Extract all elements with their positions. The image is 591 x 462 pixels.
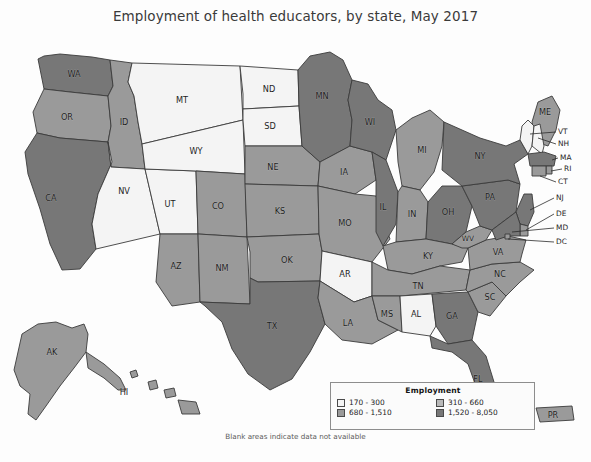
label-KY: KY <box>423 251 434 261</box>
label-SD: SD <box>264 121 276 131</box>
label-GA: GA <box>446 311 458 321</box>
label-ME: ME <box>539 107 551 117</box>
label-RI: RI <box>564 164 571 173</box>
label-NY: NY <box>474 151 486 161</box>
label-NC: NC <box>494 269 506 279</box>
label-VT: VT <box>558 127 568 136</box>
state-CT[interactable] <box>532 166 546 176</box>
label-MD: MD <box>556 223 568 232</box>
label-ID: ID <box>120 117 129 127</box>
state-MN[interactable] <box>298 52 352 162</box>
label-CO: CO <box>212 201 224 211</box>
legend-item-3[interactable]: 680 - 1,510 <box>337 409 430 417</box>
legend-swatch-2 <box>436 399 444 407</box>
map-figure: Employment of health educators, by state… <box>0 0 591 462</box>
label-MI: MI <box>417 145 426 155</box>
label-WY: WY <box>189 146 203 156</box>
legend-label-2: 310 - 660 <box>448 399 484 406</box>
label-LA: LA <box>343 318 354 328</box>
legend-swatch-4 <box>436 409 444 417</box>
state-AK[interactable] <box>14 322 88 420</box>
label-MA: MA <box>560 153 571 162</box>
label-MN: MN <box>315 91 328 101</box>
legend-title: Employment <box>337 386 529 395</box>
label-ND: ND <box>263 84 275 94</box>
label-NM: NM <box>215 263 228 273</box>
leader-CT <box>540 176 556 182</box>
label-NH: NH <box>558 139 569 148</box>
legend-label-4: 1,520 - 8,050 <box>448 409 498 416</box>
ak-panhandle <box>86 352 126 390</box>
legend-item-4[interactable]: 1,520 - 8,050 <box>436 409 529 417</box>
label-WI: WI <box>365 117 376 127</box>
label-TN: TN <box>411 281 423 291</box>
us-choropleth-map: WA OR CA ID NV UT MT WY CO AZ NM ND SD N… <box>0 34 591 434</box>
label-OR: OR <box>61 112 73 122</box>
label-DC: DC <box>556 237 567 246</box>
state-DC[interactable] <box>505 234 510 239</box>
map-svg: WA OR CA ID NV UT MT WY CO AZ NM ND SD N… <box>0 34 591 434</box>
label-NE: NE <box>267 162 278 172</box>
label-CA: CA <box>45 193 57 203</box>
label-AR: AR <box>339 269 351 279</box>
legend-items: 170 - 300 310 - 660 680 - 1,510 1,520 - … <box>337 399 529 417</box>
map-legend: Employment 170 - 300 310 - 660 680 - 1,5… <box>330 382 535 430</box>
hi-island-4 <box>178 400 200 414</box>
label-SC: SC <box>485 292 496 302</box>
legend-item-2[interactable]: 310 - 660 <box>436 399 529 407</box>
label-WA: WA <box>67 69 81 79</box>
legend-label-3: 680 - 1,510 <box>349 409 392 416</box>
legend-swatch-3 <box>337 409 345 417</box>
label-OH: OH <box>442 207 455 217</box>
label-WV: WV <box>462 234 474 243</box>
label-PA: PA <box>485 192 495 202</box>
hi-island-3 <box>164 388 176 398</box>
label-KS: KS <box>275 206 286 216</box>
legend-item-1[interactable]: 170 - 300 <box>337 399 430 407</box>
legend-swatch-1 <box>337 399 345 407</box>
page-title: Employment of health educators, by state… <box>0 8 591 24</box>
label-AL: AL <box>411 309 422 319</box>
label-IL: IL <box>380 202 387 212</box>
map-note: Blank areas indicate data not available <box>0 432 591 441</box>
label-CT: CT <box>558 177 568 186</box>
label-PR: PR <box>548 410 559 420</box>
label-TX: TX <box>266 321 278 331</box>
leader-RI <box>551 169 562 171</box>
label-OK: OK <box>281 255 293 265</box>
state-HI[interactable] <box>130 370 138 378</box>
legend-label-1: 170 - 300 <box>349 399 385 406</box>
label-DE: DE <box>556 209 567 218</box>
label-HI: HI <box>120 387 129 397</box>
state-RI[interactable] <box>546 166 552 174</box>
label-NV: NV <box>118 186 130 196</box>
label-MO: MO <box>338 218 352 228</box>
label-NJ: NJ <box>556 193 564 202</box>
state-IL[interactable] <box>372 152 398 246</box>
label-IA: IA <box>340 167 348 177</box>
label-VA: VA <box>493 247 504 257</box>
state-MA[interactable] <box>528 152 556 166</box>
label-MS: MS <box>381 309 393 319</box>
leader-NJ <box>530 198 554 210</box>
hi-island-2 <box>148 380 158 390</box>
label-AZ: AZ <box>170 261 182 271</box>
label-MT: MT <box>176 95 189 105</box>
label-IN: IN <box>408 209 417 219</box>
label-AK: AK <box>47 347 59 357</box>
label-UT: UT <box>165 199 177 209</box>
